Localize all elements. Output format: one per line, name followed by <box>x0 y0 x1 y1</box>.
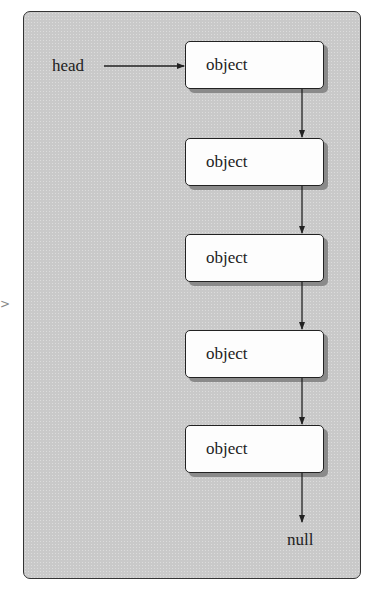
node-label: object <box>206 439 248 459</box>
list-node-4: object <box>185 330 324 378</box>
list-node-2: object <box>185 138 324 186</box>
list-node-3: object <box>185 234 324 282</box>
node-label: object <box>206 152 248 172</box>
null-label: null <box>287 530 313 550</box>
head-label: head <box>52 56 84 76</box>
diagram-panel <box>23 11 361 579</box>
list-node-1: object <box>185 41 324 89</box>
list-node-5: object <box>185 425 324 473</box>
node-label: object <box>206 55 248 75</box>
page-edge-artifact: > <box>0 297 10 311</box>
node-label: object <box>206 344 248 364</box>
node-label: object <box>206 248 248 268</box>
